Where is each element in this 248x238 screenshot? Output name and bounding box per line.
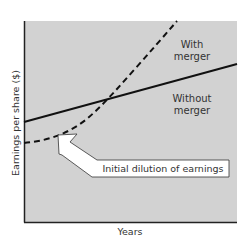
x-axis-label: Years: [116, 226, 142, 237]
with-merger-label-line2: merger: [174, 51, 211, 62]
without-merger-label-line1: Without: [172, 93, 211, 104]
callout-text: Initial dilution of earnings: [102, 163, 223, 174]
without-merger-label-line2: merger: [174, 105, 211, 116]
y-axis-label: Earnings per share ($): [10, 70, 21, 176]
chart: With merger Without merger Initial dilut…: [0, 0, 248, 238]
with-merger-label-line1: With: [181, 39, 204, 50]
